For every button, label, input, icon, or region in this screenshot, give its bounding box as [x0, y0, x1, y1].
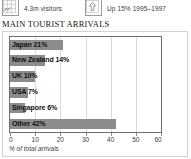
bar-label: Singapore 6% — [12, 103, 57, 114]
x-axis-tick-label: 60 — [154, 136, 161, 143]
chart-title: MAIN TOURIST ARRIVALS — [2, 19, 109, 29]
x-axis-tick-label: 50 — [132, 136, 139, 143]
x-axis-tick-label: 10 — [32, 136, 39, 143]
x-axis: 0102030405060 — [9, 133, 162, 145]
x-axis-tick-label: 0 — [9, 136, 13, 143]
bar-row: UK 10% — [10, 69, 161, 85]
bar-series: Japan 21%New Zealand 14%UK 10%USA 7%Sing… — [10, 37, 161, 132]
bar-row: Singapore 6% — [10, 100, 161, 116]
header-stats-bar: 4.3m visitors Up 15% 1995–1997 — [0, 0, 191, 17]
stat-growth: Up 15% 1995–1997 — [85, 0, 166, 17]
plot-area: Japan 21%New Zealand 14%UK 10%USA 7%Sing… — [9, 36, 162, 133]
bar-row: Other 42% — [10, 116, 161, 132]
x-axis-label: % of total arrivals — [9, 145, 59, 152]
bar-label: Japan 21% — [12, 40, 47, 51]
x-axis-tick-label: 30 — [82, 136, 89, 143]
map-grid-icon — [2, 0, 19, 16]
x-axis-tick-label: 40 — [107, 136, 114, 143]
chart-container: Japan 21%New Zealand 14%UK 10%USA 7%Sing… — [2, 31, 188, 157]
x-axis-tick-label: 20 — [57, 136, 64, 143]
bar-row: USA 7% — [10, 85, 161, 101]
bar-row: Japan 21% — [10, 37, 161, 53]
bar-label: USA 7% — [12, 87, 38, 98]
stat-growth-label: Up 15% 1995–1997 — [107, 5, 166, 12]
stat-visitors-label: 4.3m visitors — [24, 5, 62, 12]
bar-row: New Zealand 14% — [10, 53, 161, 69]
bar-label: New Zealand 14% — [12, 55, 69, 66]
up-arrow-icon — [85, 0, 102, 16]
bar-label: UK 10% — [12, 71, 37, 82]
bar-label: Other 42% — [12, 119, 46, 130]
stat-visitors: 4.3m visitors — [2, 0, 85, 17]
